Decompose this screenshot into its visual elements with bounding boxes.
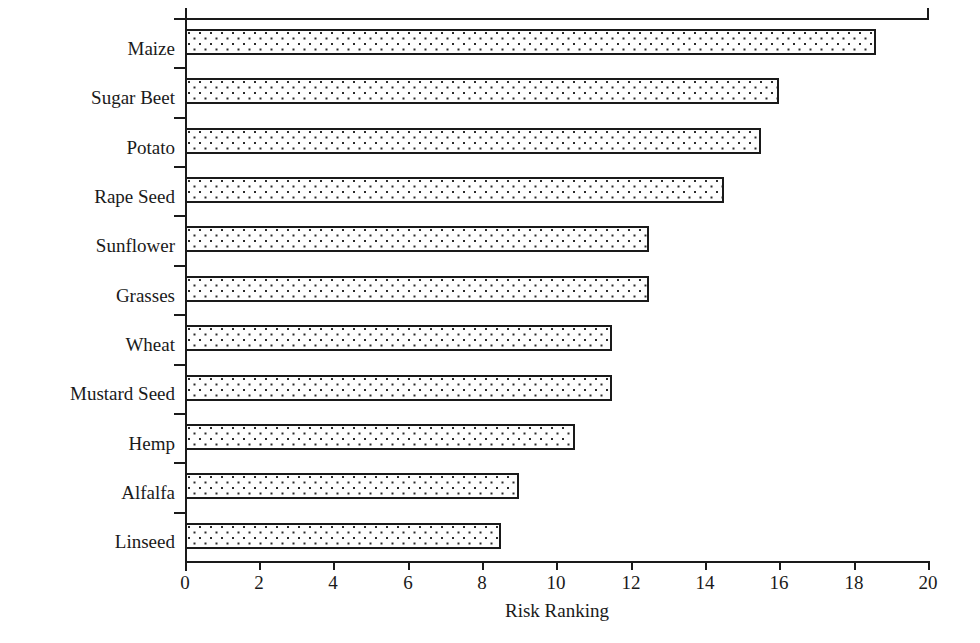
y-axis-tick-label: Mustard Seed (5, 384, 175, 403)
bar-row (185, 265, 928, 314)
bar-row (185, 512, 928, 561)
x-axis-tick-label: 18 (845, 573, 864, 592)
bar-sunflower (185, 226, 649, 252)
bar-alfalfa (185, 473, 519, 499)
x-axis-tick (259, 561, 261, 570)
y-axis-boundary-tick (174, 462, 185, 464)
bar-mustard-seed (185, 375, 612, 401)
y-axis-tick-label: Sunflower (5, 236, 175, 255)
y-axis-boundary-tick (174, 265, 185, 267)
bar-row (185, 117, 928, 166)
bar-chart: Maize Sugar Beet Potato Rape Seed Sunflo… (0, 0, 980, 643)
y-axis-boundary-tick (174, 512, 185, 514)
x-axis-tick (482, 561, 484, 570)
plot-area (185, 18, 928, 561)
bar-row (185, 413, 928, 462)
x-axis-tick (854, 561, 856, 570)
y-axis-boundary-tick (174, 67, 185, 69)
y-axis-tick-label: Alfalfa (5, 483, 175, 502)
bar-row (185, 18, 928, 67)
x-axis-tick-label: 0 (180, 573, 190, 592)
x-axis-tick-label: 16 (770, 573, 789, 592)
y-axis-boundary-tick (174, 215, 185, 217)
x-axis-tick (408, 561, 410, 570)
bar-potato (185, 128, 761, 154)
y-axis-tick-label: Potato (5, 138, 175, 157)
x-axis-tick (185, 552, 187, 571)
y-axis-tick-label: Maize (5, 39, 175, 58)
x-axis-tick-label: 10 (547, 573, 566, 592)
x-axis-tick-label: 4 (328, 573, 338, 592)
x-axis-tick (705, 561, 707, 570)
bar-row (185, 314, 928, 363)
bar-row (185, 67, 928, 116)
y-axis-tick-label: Linseed (5, 532, 175, 551)
y-axis-labels: Maize Sugar Beet Potato Rape Seed Sunflo… (0, 18, 175, 561)
x-axis-title: Risk Ranking (185, 601, 929, 620)
bar-grasses (185, 276, 649, 302)
bar-row (185, 166, 928, 215)
y-axis-tick-label: Rape Seed (5, 187, 175, 206)
y-axis-boundary-tick (174, 18, 185, 20)
y-axis-boundary-tick (174, 413, 185, 415)
bar-hemp (185, 424, 575, 450)
y-axis-tick-label: Grasses (5, 286, 175, 305)
x-axis-tick (631, 561, 633, 570)
bar-wheat (185, 325, 612, 351)
bar-maize (185, 29, 876, 55)
bar-sugar-beet (185, 78, 779, 104)
bar-row (185, 462, 928, 511)
x-axis-tick (556, 561, 558, 570)
x-axis-tick-label: 20 (919, 573, 938, 592)
y-axis-boundary-tick (174, 166, 185, 168)
bar-row (185, 215, 928, 264)
y-axis-tick-label: Hemp (5, 434, 175, 453)
x-axis-tick-label: 6 (403, 573, 413, 592)
y-axis-boundary-tick (174, 117, 185, 119)
bar-rape-seed (185, 177, 724, 203)
x-axis-tick (779, 561, 781, 570)
x-axis-tick-label: 2 (254, 573, 264, 592)
y-axis-tick-label: Wheat (5, 335, 175, 354)
x-axis-tick-label: 12 (622, 573, 641, 592)
x-axis-tick (928, 561, 930, 570)
y-axis-tick-label: Sugar Beet (5, 88, 175, 107)
bar-linseed (185, 523, 501, 549)
bar-row (185, 364, 928, 413)
x-axis-tick (333, 561, 335, 570)
y-axis-boundary-tick (174, 364, 185, 366)
y-axis-boundary-tick (174, 314, 185, 316)
x-axis-tick-label: 14 (696, 573, 715, 592)
x-axis-tick-label: 8 (477, 573, 487, 592)
